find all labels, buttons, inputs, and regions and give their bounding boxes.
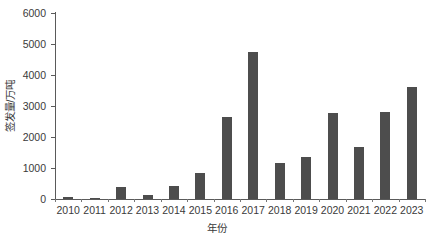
y-tick-mark — [51, 168, 55, 169]
x-tick-label: 2016 — [215, 205, 238, 216]
x-tick-label: 2014 — [162, 205, 185, 216]
y-tick-label: 0 — [0, 194, 46, 205]
x-tick-mark — [399, 199, 400, 202]
x-tick-label: 2017 — [242, 205, 265, 216]
x-tick-mark — [161, 199, 162, 202]
bar-chart: 签发量/万吨 0100020003000400050006000 2010201… — [0, 0, 433, 249]
bar — [222, 117, 232, 199]
x-tick-label: 2020 — [321, 205, 344, 216]
x-tick-mark — [372, 199, 373, 202]
bar — [328, 113, 338, 199]
y-tick-mark — [51, 13, 55, 14]
y-tick-label: 5000 — [0, 39, 46, 50]
bar — [63, 197, 73, 199]
x-tick-label: 2011 — [83, 205, 106, 216]
x-tick-mark — [55, 199, 56, 202]
y-tick-label: 1000 — [0, 163, 46, 174]
y-tick-label: 4000 — [0, 70, 46, 81]
y-tick-mark — [51, 44, 55, 45]
bar — [169, 186, 179, 199]
x-tick-label: 2012 — [109, 205, 132, 216]
bar — [248, 52, 258, 199]
x-tick-mark — [134, 199, 135, 202]
x-tick-label: 2013 — [136, 205, 159, 216]
y-tick-mark — [51, 106, 55, 107]
bar — [354, 147, 364, 199]
x-tick-mark — [81, 199, 82, 202]
x-tick-label: 2018 — [268, 205, 291, 216]
bar — [143, 195, 153, 199]
bar — [90, 198, 100, 199]
x-tick-mark — [319, 199, 320, 202]
bar — [380, 112, 390, 199]
x-tick-mark — [214, 199, 215, 202]
x-tick-mark — [187, 199, 188, 202]
x-tick-label: 2023 — [400, 205, 423, 216]
x-tick-mark — [346, 199, 347, 202]
x-tick-mark — [425, 199, 426, 202]
x-axis-title: 年份 — [0, 223, 433, 234]
x-tick-label: 2022 — [374, 205, 397, 216]
y-tick-label: 3000 — [0, 101, 46, 112]
bar — [407, 87, 417, 199]
y-tick-mark — [51, 75, 55, 76]
plot-area — [55, 13, 425, 199]
x-tick-mark — [108, 199, 109, 202]
x-tick-mark — [293, 199, 294, 202]
x-tick-label: 2019 — [294, 205, 317, 216]
x-tick-mark — [240, 199, 241, 202]
x-tick-label: 2015 — [189, 205, 212, 216]
bar — [195, 173, 205, 199]
y-tick-label: 2000 — [0, 132, 46, 143]
bar — [116, 187, 126, 199]
bar — [275, 163, 285, 199]
y-tick-label: 6000 — [0, 8, 46, 19]
x-tick-label: 2010 — [57, 205, 80, 216]
x-tick-mark — [266, 199, 267, 202]
bar — [301, 157, 311, 199]
y-tick-mark — [51, 137, 55, 138]
x-tick-label: 2021 — [347, 205, 370, 216]
